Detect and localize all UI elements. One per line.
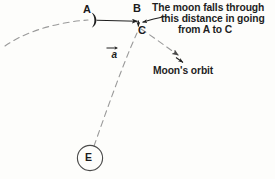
point-label-e: E — [85, 152, 92, 163]
point-label-c: C — [138, 25, 146, 36]
acceleration-vector-label: a — [106, 6, 123, 80]
crescent-moon-icon — [92, 13, 97, 28]
callout-line-2: this distance in going — [152, 14, 274, 25]
callout-line-3: from A to C — [152, 25, 274, 36]
vector-overbar-arrow-icon — [106, 26, 123, 30]
point-label-a: A — [83, 4, 91, 15]
callout-text: The moon falls through this distance in … — [152, 3, 274, 35]
physics-diagram: A B C E a The moon falls through this di… — [0, 0, 275, 179]
moon-orbit-label: Moon's orbit — [153, 65, 213, 76]
point-label-b: B — [133, 3, 141, 14]
orbit-label-arrow-icon — [176, 58, 183, 63]
